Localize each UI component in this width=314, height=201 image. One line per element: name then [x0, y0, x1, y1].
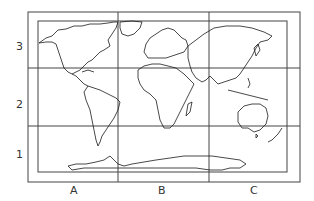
central-america-outline — [72, 74, 88, 86]
indonesia-outline — [228, 90, 268, 100]
inner-map-frame — [38, 21, 287, 172]
row-label-2: 2 — [16, 99, 23, 110]
row-label-3: 3 — [16, 41, 23, 52]
caribbean-outline — [82, 70, 94, 72]
south-america-outline — [84, 86, 120, 146]
column-label-a: A — [70, 185, 78, 196]
africa-outline — [138, 64, 194, 128]
column-label-c: C — [250, 185, 258, 196]
outer-frame — [28, 12, 300, 182]
europe-outline — [144, 28, 188, 58]
asia-outline — [188, 26, 272, 84]
world-map — [0, 0, 314, 201]
tasmania-outline — [256, 134, 258, 138]
madagascar-outline — [186, 102, 192, 116]
row-label-1: 1 — [16, 149, 23, 160]
greenland-outline — [120, 21, 142, 36]
north-america-outline — [39, 22, 118, 74]
new-zealand-outline — [268, 128, 282, 142]
australia-outline — [238, 104, 268, 132]
column-label-b: B — [158, 185, 166, 196]
antarctica-outline — [68, 156, 246, 170]
philippines-outline — [248, 78, 250, 88]
